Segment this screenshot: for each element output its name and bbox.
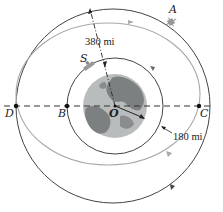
orbit-diagram: A S D B O C 380 mi 180 mi bbox=[0, 0, 223, 212]
direction-arrow-icon bbox=[128, 20, 134, 24]
direction-arrow-icon bbox=[170, 184, 175, 190]
label-C: C bbox=[200, 107, 209, 120]
direction-arrow-icon bbox=[150, 66, 155, 71]
dimension-180-mi: 180 mi bbox=[173, 131, 203, 142]
label-D: D bbox=[4, 107, 14, 120]
arrowhead-icon bbox=[103, 61, 107, 68]
direction-arrow-icon bbox=[166, 151, 172, 157]
label-A: A bbox=[168, 3, 177, 16]
point-D bbox=[14, 104, 18, 108]
label-B: B bbox=[57, 107, 66, 120]
dimension-380-mi: 380 mi bbox=[85, 36, 115, 47]
label-O: O bbox=[109, 107, 119, 120]
satellite-a-icon bbox=[163, 15, 178, 30]
orbit-diagram-svg: A S D B O C 380 mi 180 mi bbox=[0, 0, 223, 212]
label-S: S bbox=[80, 52, 88, 65]
